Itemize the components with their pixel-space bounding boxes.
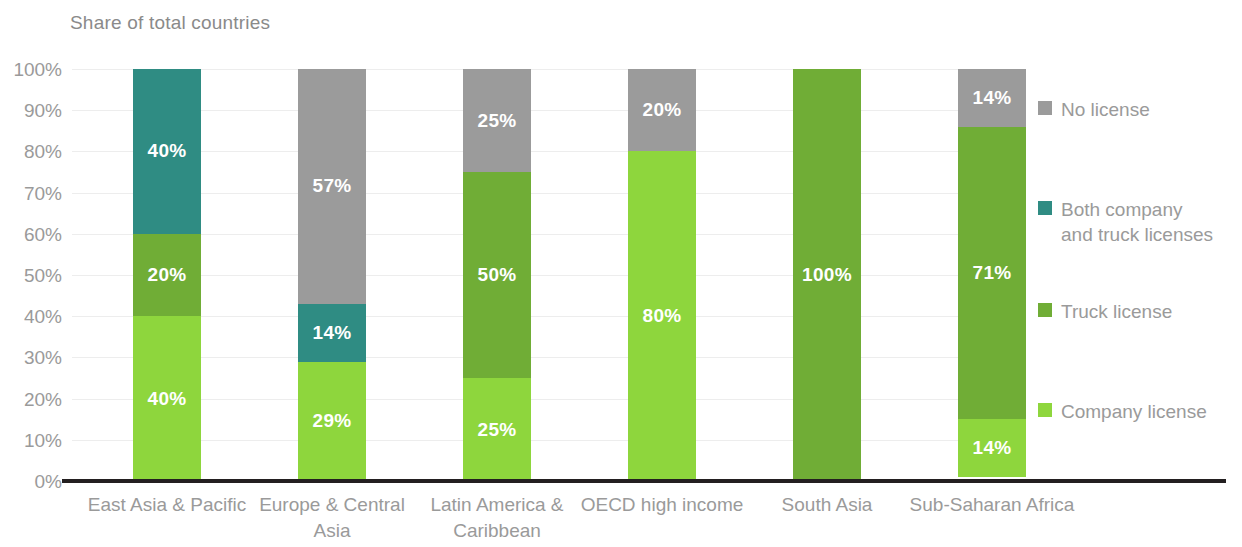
bar-segment[interactable]: 20% [628,69,696,151]
x-axis-label: South Asia [739,492,915,518]
gridline [72,193,1022,194]
bar-south-asia[interactable]: 100% [793,69,861,481]
x-axis-label: Latin America & Caribbean [409,492,585,544]
y-axis-tick-label: 20% [4,390,62,409]
y-axis-tick-label: 90% [4,101,62,120]
bar-segment[interactable]: 29% [298,362,366,481]
bar-segment[interactable]: 14% [958,419,1026,477]
y-axis-tick-label: 100% [4,60,62,79]
bar-segment[interactable]: 80% [628,151,696,481]
y-axis-tick-label: 30% [4,348,62,367]
legend-label: No license [1061,97,1150,122]
chart-title: Share of total countries [70,12,270,34]
gridline [72,151,1022,152]
y-axis: 100%90%80%70%60%50%40%30%20%10%0% [0,0,62,547]
legend-label: Company license [1061,399,1207,424]
gridline [72,69,1022,70]
bar-sub-saharan-africa[interactable]: 14%71%14% [958,69,1026,481]
bar-segment[interactable]: 14% [958,69,1026,127]
bar-segment[interactable]: 57% [298,69,366,304]
y-axis-tick-label: 0% [4,472,62,491]
bar-segment[interactable]: 25% [463,378,531,481]
stacked-bar-chart: Share of total countries 100%90%80%70%60… [0,0,1242,547]
legend-swatch-icon [1038,403,1052,417]
x-axis-label: East Asia & Pacific [79,492,255,518]
gridline [72,399,1022,400]
legend-swatch-icon [1038,101,1052,115]
bar-oecd-high-income[interactable]: 20%80% [628,69,696,481]
legend-item[interactable]: Both company and truck licenses [1038,197,1213,247]
y-axis-tick-label: 40% [4,307,62,326]
bar-segment[interactable]: 40% [133,316,201,481]
legend-item[interactable]: Company license [1038,399,1207,424]
gridline [72,357,1022,358]
bar-segment[interactable]: 14% [298,304,366,362]
gridline [72,316,1022,317]
y-axis-tick-label: 60% [4,225,62,244]
gridline [72,440,1022,441]
bar-europe-central-asia[interactable]: 57%14%29% [298,69,366,481]
legend-item[interactable]: Truck license [1038,299,1172,324]
y-axis-tick-label: 70% [4,184,62,203]
bar-segment[interactable]: 40% [133,69,201,234]
y-axis-tick-label: 50% [4,266,62,285]
bar-latin-america-caribbean[interactable]: 25%50%25% [463,69,531,481]
bar-segment[interactable]: 100% [793,69,861,481]
plot-area: 40%20%40%57%14%29%25%50%25%20%80%100%14%… [72,69,1022,481]
bar-segment[interactable]: 71% [958,127,1026,420]
legend-swatch-icon [1038,303,1052,317]
gridline [72,234,1022,235]
chart-legend: No licenseBoth company and truck license… [1038,69,1242,481]
bar-segment[interactable]: 50% [463,172,531,378]
gridline [72,275,1022,276]
x-axis-label: Sub-Saharan Africa [904,492,1080,518]
legend-label: Both company and truck licenses [1061,197,1213,247]
bar-east-asia-pacific[interactable]: 40%20%40% [133,69,201,481]
legend-item[interactable]: No license [1038,97,1150,122]
bar-segment[interactable]: 25% [463,69,531,172]
legend-label: Truck license [1061,299,1172,324]
x-axis-label: Europe & Central Asia [244,492,420,544]
legend-swatch-icon [1038,201,1052,215]
bar-segment[interactable]: 20% [133,234,201,316]
y-axis-tick-label: 80% [4,142,62,161]
gridline [72,110,1022,111]
y-axis-tick-label: 10% [4,431,62,450]
x-axis-label: OECD high income [574,492,750,518]
